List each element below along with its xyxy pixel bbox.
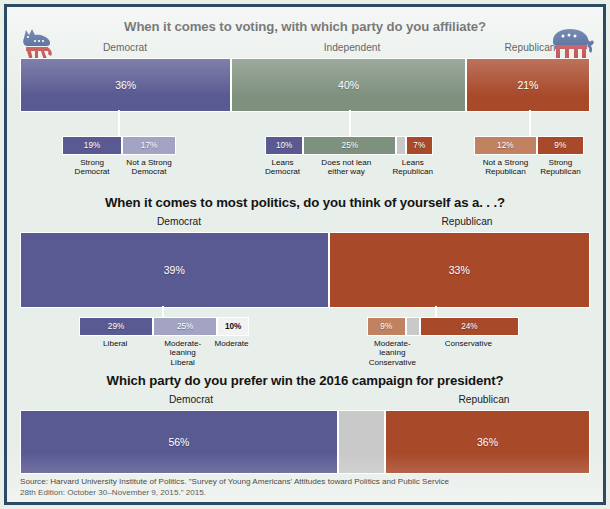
group-label-independent-affiliation: Independent <box>237 42 467 54</box>
sub-segment-moderate-leaning-liberal[interactable]: 25% <box>153 317 217 336</box>
main-segment-democrat-ideology-value: 39% <box>164 264 185 276</box>
sub-segment-leans-republican[interactable]: 7% <box>406 136 433 155</box>
sub-label-not-strong-republican: Not a Strong Republican <box>474 158 537 177</box>
source-note-line2: 28th Edition: October 30–November 9, 201… <box>20 488 595 499</box>
sub-segment-liberal[interactable]: 29% <box>79 317 153 336</box>
main-segment-independent[interactable]: 40% <box>231 58 466 112</box>
section-title-ideology: When it comes to most politics, do you t… <box>7 195 603 210</box>
poster-frame: When it comes to voting, with which part… <box>4 4 606 505</box>
sub-segment-liberal-value: 29% <box>108 322 124 331</box>
main-segment-democrat-ideology[interactable]: 39% <box>20 232 329 308</box>
sub-label-moderate: Moderate <box>214 339 249 367</box>
sub-segment-moderate-value: 10% <box>225 322 241 331</box>
main-segment-preference2016-gap <box>338 410 385 474</box>
section-title-preference2016: Which party do you prefer win the 2016 c… <box>7 373 603 388</box>
main-bar-affiliation: 36% 40% 21% <box>20 58 590 110</box>
sub-segment-strong-democrat-value: 19% <box>84 141 100 150</box>
main-bar-ideology: 39% 33% <box>20 232 590 306</box>
sub-bar-group-republican-affiliation: 12% 9% Not a Strong Republican Strong Re… <box>474 136 584 177</box>
sub-segment-strong-democrat[interactable]: 19% <box>62 136 122 155</box>
sub-label-strong-republican: Strong Republican <box>537 158 584 177</box>
sub-segment-does-not-lean-value: 25% <box>342 141 358 150</box>
main-segment-republican-value: 21% <box>517 79 538 91</box>
sub-segment-moderate[interactable]: 10% <box>217 317 249 336</box>
source-note: Source: Harvard University Institute of … <box>20 477 595 498</box>
group-label-republican-preference2016: Republican <box>377 394 591 406</box>
main-bar-preference2016: 56% 36% <box>20 410 590 472</box>
sub-bar-group-republican-ideology: 9% 24% Moderate-leaning Conservative Con… <box>367 317 519 367</box>
sub-label-leans-democrat: Leans Democrat <box>265 158 300 177</box>
group-label-democrat-ideology: Democrat <box>19 216 339 228</box>
main-segment-democrat[interactable]: 36% <box>20 58 231 112</box>
sub-label-not-strong-democrat: Not a Strong Democrat <box>122 158 176 177</box>
sub-segment-leans-democrat[interactable]: 10% <box>265 136 303 155</box>
connector-republican-affiliation <box>529 110 531 137</box>
group-label-republican-ideology: Republican <box>343 216 591 228</box>
sub-label-liberal: Liberal <box>79 339 152 367</box>
main-segment-republican-preference2016-value: 36% <box>477 436 498 448</box>
main-segment-republican-preference2016[interactable]: 36% <box>385 410 590 474</box>
sub-label-moderate-leaning-conservative: Moderate-leaning Conservative <box>367 339 418 367</box>
group-label-democrat-affiliation: Democrat <box>19 42 231 54</box>
sub-segment-moderate-leaning-liberal-value: 25% <box>177 322 193 331</box>
sub-segment-not-strong-republican-value: 12% <box>497 141 513 150</box>
sub-bar-group-democrat-ideology: 29% 25% 10% Liberal Moderate-leaning Lib… <box>79 317 249 367</box>
sub-label-conservative: Conservative <box>418 339 519 367</box>
sub-segment-leans-democrat-value: 10% <box>276 141 292 150</box>
sub-label-moderate-leaning-liberal: Moderate-leaning Liberal <box>152 339 215 367</box>
group-label-republican-affiliation: Republican <box>469 42 591 54</box>
section-title-affiliation: When it comes to voting, with which part… <box>7 19 603 34</box>
sub-segment-strong-republican-value: 9% <box>554 141 566 150</box>
sub-segment-not-strong-republican[interactable]: 12% <box>474 136 537 155</box>
sub-segment-does-not-lean[interactable]: 25% <box>303 136 396 155</box>
sub-bar-group-democrat-affiliation: 19% 17% Strong Democrat Not a Strong Dem… <box>62 136 176 177</box>
sub-label-leans-republican: Leans Republican <box>393 158 434 177</box>
main-segment-democrat-preference2016-value: 56% <box>168 436 189 448</box>
sub-segment-leans-republican-value: 7% <box>413 141 425 150</box>
connector-independent-affiliation <box>349 110 351 137</box>
main-segment-republican-ideology-value: 33% <box>449 264 470 276</box>
sub-segment-moderate-leaning-conservative-value: 9% <box>380 322 392 331</box>
connector-democrat-affiliation <box>118 110 120 137</box>
sub-label-strong-democrat: Strong Democrat <box>62 158 122 177</box>
sub-segment-not-strong-democrat-value: 17% <box>141 141 157 150</box>
connector-democrat-ideology <box>162 306 164 317</box>
sub-segment-independent-gap <box>396 136 405 155</box>
source-note-line1: Source: Harvard University Institute of … <box>20 477 595 488</box>
sub-segment-not-strong-democrat[interactable]: 17% <box>122 136 176 155</box>
main-segment-democrat-value: 36% <box>115 79 136 91</box>
main-segment-democrat-preference2016[interactable]: 56% <box>20 410 338 474</box>
group-label-democrat-preference2016: Democrat <box>19 394 363 406</box>
main-segment-republican-ideology[interactable]: 33% <box>329 232 590 308</box>
sub-segment-conservative[interactable]: 24% <box>420 317 519 336</box>
sub-bar-group-independent-affiliation: 10% 25% 7% Leans Democrat Does not lean … <box>265 136 433 177</box>
sub-segment-republican-ideology-gap <box>406 317 420 336</box>
sub-segment-conservative-value: 24% <box>461 322 477 331</box>
main-segment-republican[interactable]: 21% <box>466 58 590 112</box>
main-segment-independent-value: 40% <box>338 79 359 91</box>
sub-segment-moderate-leaning-conservative[interactable]: 9% <box>367 317 406 336</box>
sub-segment-strong-republican[interactable]: 9% <box>537 136 584 155</box>
connector-republican-ideology <box>435 306 437 317</box>
sub-label-does-not-lean: Does not lean either way <box>300 158 392 177</box>
infographic-poster: When it comes to voting, with which part… <box>0 0 610 509</box>
